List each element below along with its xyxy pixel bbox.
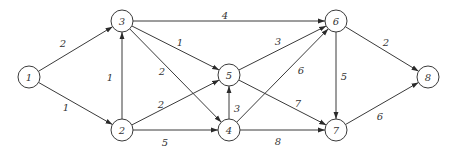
edge-weight-5-7: 7 [295, 98, 302, 109]
edge-weight-1-2: 1 [63, 102, 69, 113]
edge-weight-2-4: 5 [162, 137, 168, 148]
node-7: 7 [325, 119, 347, 141]
edge-weight-3-5: 1 [177, 37, 183, 48]
edge-4-6 [237, 29, 329, 122]
edge-weight-1-3: 2 [59, 38, 66, 49]
node-8: 8 [417, 66, 439, 88]
node-label: 5 [226, 70, 232, 81]
edge-6-8 [345, 27, 418, 72]
edge-weight-5-6: 3 [275, 36, 281, 47]
node-2: 2 [111, 119, 133, 141]
edge-1-3 [38, 27, 112, 72]
edge-weight-4-5: 3 [234, 103, 240, 114]
node-5: 5 [218, 64, 240, 86]
node-1: 1 [18, 66, 40, 88]
node-4: 4 [218, 119, 240, 141]
node-label: 6 [333, 16, 340, 27]
edge-5-6 [239, 26, 326, 70]
edge-5-7 [239, 80, 326, 125]
node-3: 3 [111, 10, 133, 32]
node-label: 2 [118, 125, 125, 136]
edge-3-5 [132, 26, 219, 70]
edge-weight-7-8: 6 [377, 111, 384, 122]
node-label: 7 [333, 125, 340, 136]
edge-weight-4-7: 8 [275, 136, 281, 147]
edge-weight-6-8: 2 [382, 37, 389, 48]
node-label: 8 [425, 72, 431, 83]
edge-3-4 [130, 29, 222, 122]
edge-weight-3-6: 4 [221, 10, 228, 21]
edge-weight-6-7: 5 [341, 71, 347, 82]
edge-weight-4-6: 6 [298, 65, 305, 76]
network-graph: 2114122533678526 12345678 [0, 0, 454, 153]
node-label: 4 [225, 125, 232, 136]
node-6: 6 [325, 10, 347, 32]
edge-1-2 [39, 82, 113, 124]
node-label: 3 [119, 16, 125, 27]
edge-2-5 [132, 80, 219, 125]
edge-weight-2-5: 2 [157, 99, 164, 110]
edge-weight-3-4: 2 [158, 66, 165, 77]
node-label: 1 [26, 72, 32, 83]
edge-weight-2-3: 1 [107, 72, 113, 83]
